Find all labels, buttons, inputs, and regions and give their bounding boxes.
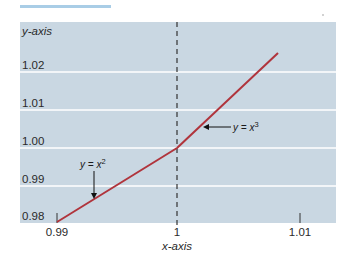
y-tick-label: 1.01	[22, 97, 44, 109]
x-tick-label: 1	[174, 226, 180, 238]
y-tick-label: 1.00	[22, 135, 44, 147]
plot-area	[20, 22, 336, 223]
y-tick-label: 0.99	[22, 173, 44, 185]
speck-dot	[322, 14, 324, 16]
chart: y-axis 1.02 1.01 1.00 0.99 0.98 0.99 1 1…	[0, 0, 348, 266]
y-tick-label: 0.98	[22, 210, 44, 222]
y-axis-label: y-axis	[21, 25, 52, 37]
x-tick-label: 1.01	[289, 226, 311, 238]
x-axis-label: x-axis	[161, 240, 192, 252]
x-tick-label: 0.99	[46, 226, 68, 238]
y-tick-label: 1.02	[22, 59, 44, 71]
